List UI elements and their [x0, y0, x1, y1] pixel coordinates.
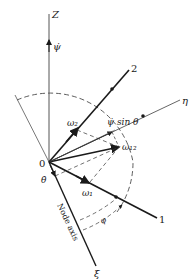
projection-omega2 [77, 130, 119, 147]
psi-dot-label: ψ̇ [53, 41, 61, 52]
omega12-label: ω₁₂ [122, 142, 137, 152]
omega2-arrow [66, 128, 78, 142]
eta-point [141, 114, 145, 118]
axis-2-point [110, 87, 114, 91]
origin-label: 0 [39, 158, 45, 169]
theta-dot-arrow [50, 165, 55, 176]
xi-axis-label: ξ [94, 268, 100, 279]
rotation-diagram: Z ψ̇ 2 η ψ̇ sin θ ω₂ ω₁₂ ω₁ 1 θ̇ ξ Node … [0, 0, 196, 279]
omega1-arrow [76, 176, 89, 183]
omega2-label: ω₂ [67, 118, 78, 128]
omega1-label: ω₁ [82, 188, 93, 198]
psi-sin-theta-label: ψ̇ sin θ [107, 117, 139, 127]
phi-label: φ [99, 215, 109, 226]
axis-2-label: 2 [131, 63, 137, 74]
dashed-arc [17, 93, 133, 212]
z-axis-label: Z [51, 9, 60, 20]
theta-dot-label: θ̇ [41, 175, 47, 185]
eta-axis-label: η [182, 95, 188, 106]
xi-node-axis [49, 162, 96, 266]
line-of-nodes-perpendicular [15, 95, 49, 162]
axis-1-point [114, 195, 118, 199]
projection-theta [55, 147, 119, 176]
axis-1-label: 1 [159, 214, 165, 225]
phi-arc-outer [80, 198, 117, 220]
omega12-guide [49, 130, 115, 162]
